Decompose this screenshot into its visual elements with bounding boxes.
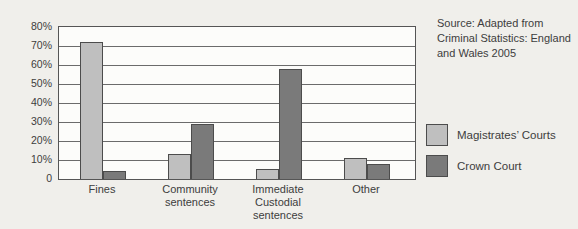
y-tick-0: 0 [0, 172, 52, 184]
plot-area [58, 26, 416, 180]
gridline-30 [59, 122, 415, 123]
bar-other-magistrates [344, 158, 367, 179]
bar-fines-magistrates [80, 42, 103, 179]
crown-court-swatch-icon [426, 155, 448, 177]
magistrates-courts-swatch-icon [426, 124, 448, 146]
x-label-immediate: Immediate Custodial sentences [228, 183, 328, 222]
y-tick-20: 20% [0, 134, 52, 146]
legend-item-magistrates-courts: Magistrates’ Courts [426, 124, 556, 146]
x-label-other: Other [316, 183, 416, 196]
legend-item-crown-court: Crown Court [426, 155, 522, 177]
legend-label-magistrates-courts: Magistrates’ Courts [457, 129, 556, 141]
bar-fines-crown [103, 171, 126, 179]
legend-label-crown-court: Crown Court [457, 160, 522, 172]
y-tick-80: 80% [0, 20, 52, 32]
y-tick-50: 50% [0, 77, 52, 89]
x-label-community: Community sentences [140, 183, 240, 209]
bar-immediate-crown [279, 69, 302, 179]
y-tick-10: 10% [0, 153, 52, 165]
sentencing-bar-chart-figure: 80%70%60%50%40%30%20%10%0 FinesCommunity… [0, 0, 578, 229]
y-tick-40: 40% [0, 96, 52, 108]
source-note: Source: Adapted from Criminal Statistics… [437, 16, 575, 61]
gridline-50 [59, 84, 415, 85]
gridline-40 [59, 103, 415, 104]
bar-community-magistrates [168, 154, 191, 179]
bar-other-crown [367, 164, 390, 179]
x-label-fines: Fines [52, 183, 152, 196]
bar-community-crown [191, 124, 214, 179]
y-tick-70: 70% [0, 39, 52, 51]
gridline-70 [59, 46, 415, 47]
gridline-20 [59, 141, 415, 142]
y-tick-30: 30% [0, 115, 52, 127]
y-tick-60: 60% [0, 58, 52, 70]
gridline-60 [59, 65, 415, 66]
bar-immediate-magistrates [256, 169, 279, 179]
